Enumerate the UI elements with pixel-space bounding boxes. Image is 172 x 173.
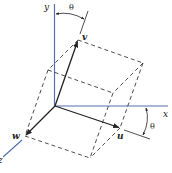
rotated-frame-diagram: y x z v u w θ θ xyxy=(0,0,172,173)
angle-top-label: θ xyxy=(69,3,74,12)
vector-w-label: w xyxy=(12,131,20,141)
vectors xyxy=(26,42,119,136)
vector-w xyxy=(26,106,55,135)
z-axis-label: z xyxy=(0,155,3,165)
dashed-cube xyxy=(25,40,143,158)
vector-v-label: v xyxy=(82,32,88,42)
angle-right-label: θ xyxy=(150,122,155,131)
vector-u xyxy=(55,106,119,128)
angle-indicator-top xyxy=(56,11,88,34)
y-axis-label: y xyxy=(43,2,50,12)
vector-v xyxy=(55,42,78,107)
vector-u-label: u xyxy=(117,131,124,141)
angle-indicator-right xyxy=(124,108,150,139)
x-axis-label: x xyxy=(163,109,168,119)
z-axis xyxy=(3,140,22,157)
